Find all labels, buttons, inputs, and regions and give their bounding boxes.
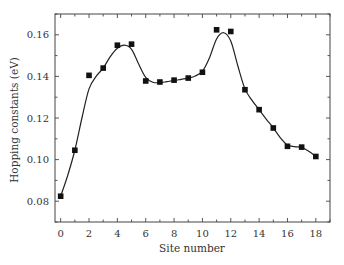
chart: 024681012141618 0.080.100.120.140.16 Sit…: [0, 0, 344, 265]
y-tick-label: 0.14: [27, 71, 49, 82]
data-point: [129, 41, 135, 47]
fit-curve: [61, 33, 316, 197]
x-tick-label: 4: [114, 228, 120, 239]
y-tick-label: 0.16: [27, 29, 49, 40]
data-point: [256, 107, 262, 113]
data-point: [299, 144, 305, 150]
data-point: [200, 69, 206, 75]
x-tick-label: 16: [281, 228, 294, 239]
data-point: [58, 193, 64, 199]
x-tick-label: 12: [224, 228, 237, 239]
y-tick-label: 0.08: [27, 196, 49, 207]
x-tick-label: 0: [57, 228, 63, 239]
x-tick-label: 8: [171, 228, 177, 239]
data-point: [72, 147, 78, 153]
data-point: [171, 77, 177, 83]
x-tick-labels: 024681012141618: [57, 228, 322, 239]
x-tick-label: 10: [196, 228, 209, 239]
data-point: [157, 79, 163, 85]
x-tick-label: 14: [253, 228, 266, 239]
x-tick-label: 18: [309, 228, 322, 239]
y-tick-label: 0.10: [27, 154, 49, 165]
x-tick-label: 6: [143, 228, 149, 239]
data-point: [115, 42, 121, 48]
y-tick-label: 0.12: [27, 113, 49, 124]
y-tick-labels: 0.080.100.120.140.16: [27, 29, 49, 206]
x-axis-label: Site number: [159, 242, 226, 254]
data-point: [285, 143, 291, 149]
x-tick-label: 2: [86, 228, 92, 239]
plot-area: 024681012141618 0.080.100.120.140.16: [27, 14, 330, 239]
data-point: [270, 125, 276, 131]
data-point: [100, 65, 106, 71]
axis-ticks: [55, 14, 330, 222]
data-point: [86, 73, 92, 79]
data-point: [228, 29, 234, 35]
y-axis-label: Hopping constants (eV): [8, 57, 20, 183]
data-markers: [58, 27, 319, 199]
data-point: [143, 78, 149, 84]
data-point: [214, 27, 220, 33]
plot-frame: [55, 14, 330, 222]
data-point: [313, 154, 319, 160]
data-point: [242, 87, 248, 93]
data-point: [185, 75, 191, 81]
